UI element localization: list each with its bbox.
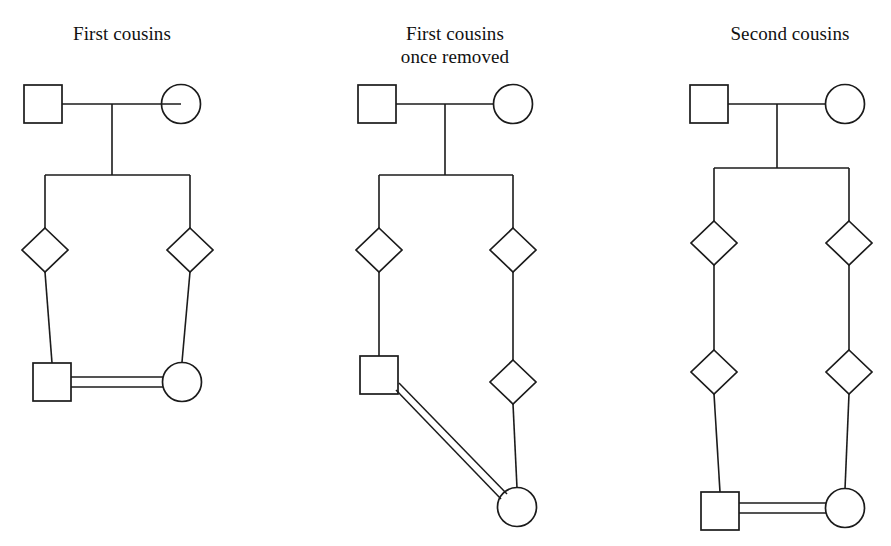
consanguineous-line-upper	[396, 390, 501, 499]
panel-first-cousins-once-removed	[356, 85, 537, 527]
symbol-circle-female-cousin	[826, 489, 865, 528]
symbol-square-male-cousin	[33, 363, 71, 401]
pedigree-figure: First cousins First cousins once removed…	[0, 0, 891, 546]
consanguineous-line-lower	[399, 383, 507, 494]
descent-line-right-gen4	[513, 404, 517, 488]
symbol-diamond-child-right	[826, 350, 872, 394]
symbol-diamond-parent-right	[490, 228, 536, 272]
symbol-square-male-grandfather	[24, 85, 62, 123]
symbol-circle-female-cousin	[163, 363, 202, 402]
symbol-circle-female-relative	[498, 488, 537, 527]
symbol-circle-female-grandmother	[826, 85, 865, 124]
symbol-square-male-relative	[360, 356, 398, 394]
panel-second-cousins	[690, 85, 872, 531]
descent-line-left-gen3	[45, 272, 52, 363]
descent-line-right-gen3	[182, 272, 190, 362]
symbol-square-male-grandfather	[358, 85, 396, 123]
symbol-square-male-cousin	[701, 492, 739, 530]
symbol-diamond-parent-left	[356, 228, 402, 272]
panel-first-cousins	[22, 85, 213, 402]
descent-line-left-gen4	[714, 394, 720, 492]
symbol-diamond-parent-left	[22, 228, 68, 272]
symbol-circle-female-grandmother	[494, 85, 533, 124]
symbol-diamond-parent-right	[826, 221, 872, 265]
symbol-diamond-child-left	[691, 350, 737, 394]
symbol-diamond-parent-right	[167, 228, 213, 272]
pedigree-canvas	[0, 0, 891, 546]
descent-line-right-gen4	[845, 394, 849, 489]
symbol-square-male-grandfather	[690, 85, 728, 123]
symbol-diamond-parent-left	[691, 221, 737, 265]
symbol-diamond-child-right	[490, 360, 536, 404]
